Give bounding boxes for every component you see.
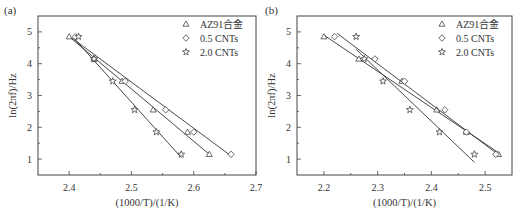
y-tick-label: 5 — [27, 26, 32, 37]
fit-line — [356, 49, 474, 162]
legend-label: AZ91合金 — [200, 18, 243, 30]
y-tick-label: 1 — [286, 154, 291, 165]
y-tick-label: 3 — [27, 90, 32, 101]
y-tick-label: 2 — [286, 122, 291, 133]
diamond-marker — [442, 107, 448, 113]
panel-label: (b) — [265, 4, 278, 17]
y-tick-label: 1 — [27, 154, 32, 165]
triangle-marker — [183, 21, 189, 26]
panel-label: (a) — [4, 4, 17, 17]
star-marker — [406, 106, 413, 113]
y-tick-label: 4 — [286, 58, 291, 69]
diamond-marker — [183, 35, 189, 41]
y-tick-label: 5 — [286, 26, 291, 37]
diamond-marker — [162, 107, 168, 113]
x-tick-label: 2.4 — [425, 182, 438, 193]
series-star — [75, 33, 185, 157]
x-tick-label: 2.3 — [371, 182, 384, 193]
x-tick-label: 2.2 — [318, 182, 331, 193]
triangle-marker — [439, 21, 445, 26]
x-tick-label: 2.5 — [479, 182, 492, 193]
y-tick-label: 3 — [286, 90, 291, 101]
star-marker — [353, 33, 360, 40]
star-marker — [439, 48, 446, 55]
diamond-marker — [228, 151, 234, 157]
y-axis-label: ln(2πf)/Hz — [7, 73, 19, 118]
y-tick-label: 2 — [27, 122, 32, 133]
chart-panel-a: (a)2.42.52.62.712345(1000/T)/(1/K)ln(2πf… — [4, 4, 262, 209]
star-marker — [178, 151, 185, 158]
legend-label: 0.5 CNTs — [200, 33, 238, 44]
chart-panel-b: (b)2.22.32.42.512345(1000/T)/(1/K)ln(2πf… — [265, 4, 512, 209]
series-triangle — [66, 34, 212, 157]
star-marker — [471, 151, 478, 158]
triangle-marker — [66, 34, 72, 39]
y-tick-label: 4 — [27, 58, 32, 69]
legend: AZ91合金0.5 CNTs2.0 CNTs — [183, 18, 244, 58]
legend-label: 2.0 CNTs — [200, 47, 238, 58]
x-tick-label: 2.5 — [125, 182, 138, 193]
x-tick-label: 2.4 — [63, 182, 76, 193]
legend-label: 0.5 CNTs — [456, 33, 494, 44]
star-marker — [436, 128, 443, 135]
legend: AZ91合金0.5 CNTs2.0 CNTs — [439, 18, 500, 58]
star-marker — [153, 128, 160, 135]
triangle-marker — [184, 129, 190, 134]
star-marker — [131, 106, 138, 113]
x-axis-label: (1000/T)/(1/K) — [116, 197, 179, 209]
x-tick-label: 2.7 — [250, 182, 263, 193]
x-tick-label: 2.6 — [187, 182, 200, 193]
figure: (a)2.42.52.62.712345(1000/T)/(1/K)ln(2πf… — [0, 0, 524, 222]
diamond-marker — [331, 33, 337, 39]
star-marker — [380, 78, 387, 85]
star-marker — [183, 48, 190, 55]
legend-label: AZ91合金 — [456, 18, 499, 30]
y-axis-label: ln(2πf)/Hz — [266, 73, 278, 118]
diamond-marker — [372, 56, 378, 62]
diamond-marker — [439, 35, 445, 41]
x-axis-label: (1000/T)/(1/K) — [373, 197, 436, 209]
legend-label: 2.0 CNTs — [456, 47, 494, 58]
